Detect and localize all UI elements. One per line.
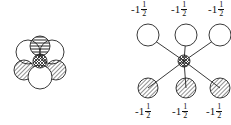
top-sphere-1 — [137, 24, 159, 46]
top-label-1: -1 12 — [131, 1, 147, 18]
bottom-sphere-1 — [138, 78, 158, 98]
sphere-center-crosshatch — [33, 54, 47, 68]
bottom-label-2: -1 12 — [172, 103, 188, 120]
sphere-top-striped — [30, 36, 50, 56]
right-star — [137, 24, 231, 98]
bottom-sphere-3 — [210, 78, 230, 98]
sphere-bottom — [28, 65, 52, 89]
top-label-3: -1 12 — [208, 1, 224, 18]
left-cluster — [14, 36, 66, 89]
bottom-label-1: -1 12 — [135, 103, 151, 120]
diagram-canvas — [0, 0, 231, 125]
top-sphere-3 — [209, 24, 231, 46]
top-sphere-2 — [175, 24, 197, 46]
bottom-label-3: -1 12 — [206, 103, 222, 120]
top-label-2: -1 12 — [171, 1, 187, 18]
center-sphere — [178, 55, 190, 67]
bottom-sphere-2 — [176, 78, 196, 98]
